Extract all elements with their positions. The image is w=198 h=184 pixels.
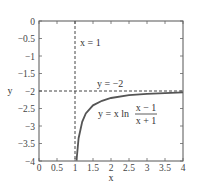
x-tick-label: 4: [181, 163, 186, 173]
y-tick-label: −1.5: [18, 69, 35, 79]
x-tick-label: 1: [73, 163, 78, 173]
x-tick-label: 3.5: [159, 163, 171, 173]
y-tick-label: −0.5: [18, 34, 35, 44]
horizontal-asymptote-label: y = −2: [97, 78, 123, 89]
y-tick-label: 0: [30, 17, 35, 27]
chart: 0−0.5−1−1.5−2−2.5−3−3.5−4 00.511.522.533…: [0, 0, 198, 184]
fraction-numerator: x − 1: [136, 102, 157, 113]
y-tick-label: −4: [25, 157, 35, 167]
x-tick-label: 0.5: [51, 163, 63, 173]
x-tick-label: 0: [37, 163, 42, 173]
x-axis-label: x: [109, 172, 114, 183]
y-tick-label: −2: [25, 87, 35, 97]
y-axis-label: y: [8, 85, 13, 96]
y-tick-label: −1: [25, 52, 35, 62]
x-tick-label: 1.5: [87, 163, 99, 173]
curve-equation-label: y = x ln: [98, 108, 129, 119]
y-tick-label: −3: [25, 122, 35, 132]
x-tick-label: 3: [145, 163, 150, 173]
fraction-denominator: x + 1: [136, 115, 157, 126]
vertical-asymptote-label: x = 1: [80, 37, 101, 48]
y-tick-label: −3.5: [18, 139, 35, 149]
y-tick-label: −2.5: [18, 104, 35, 114]
x-tick-label: 2.5: [123, 163, 135, 173]
function-curve: [77, 92, 183, 160]
y-tick-labels: 0−0.5−1−1.5−2−2.5−3−3.5−4: [18, 17, 35, 167]
